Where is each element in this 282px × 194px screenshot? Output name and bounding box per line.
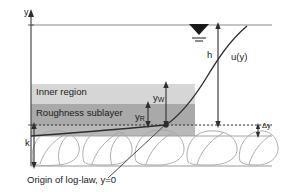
diagram-canvas: y Inner region Roughness sublayer h u(y)… bbox=[0, 0, 282, 194]
flow-depth-dimension bbox=[215, 22, 220, 128]
stone-inner-line bbox=[197, 133, 223, 164]
inner-region-label: Inner region bbox=[36, 87, 87, 97]
velocity-profile-label: u(y) bbox=[231, 52, 247, 62]
stone-inner-line bbox=[92, 133, 118, 164]
stone-inner-line bbox=[40, 134, 66, 164]
diagram-svg bbox=[0, 0, 282, 194]
water-surface-triangle-icon bbox=[189, 24, 209, 35]
y-w-label: yW bbox=[153, 93, 164, 103]
water-surface-symbol bbox=[189, 24, 209, 41]
roughness-sublayer-label: Roughness sublayer bbox=[36, 108, 123, 118]
y-r-label-subscript: R bbox=[140, 115, 145, 122]
origin-of-log-law-label: Origin of log-law, y=0 bbox=[27, 175, 116, 185]
y-w-label-subscript: W bbox=[158, 96, 165, 103]
stone-inner-line bbox=[146, 133, 172, 164]
stone-inner-line bbox=[249, 135, 271, 164]
y-axis-label: y bbox=[24, 8, 29, 17]
delta-y-label: Δy bbox=[262, 122, 271, 130]
flow-depth-label: h bbox=[207, 50, 212, 60]
y-r-label: yR bbox=[135, 112, 145, 122]
roughness-height-label: k bbox=[25, 138, 30, 148]
